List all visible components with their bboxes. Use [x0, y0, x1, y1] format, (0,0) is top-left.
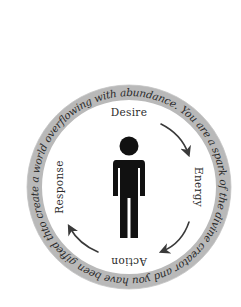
person-icon	[113, 137, 145, 239]
arrow-action-to-response-icon	[70, 228, 98, 252]
label-energy: Energy	[193, 167, 205, 207]
label-response: Response	[53, 160, 65, 213]
arrow-energy-to-action-icon	[163, 222, 189, 251]
cycle-diagram: to create a world overflowing with abund…	[0, 0, 241, 307]
label-desire: Desire	[111, 106, 147, 118]
arrow-desire-to-energy-icon	[161, 124, 188, 153]
label-action: Action	[111, 256, 148, 268]
